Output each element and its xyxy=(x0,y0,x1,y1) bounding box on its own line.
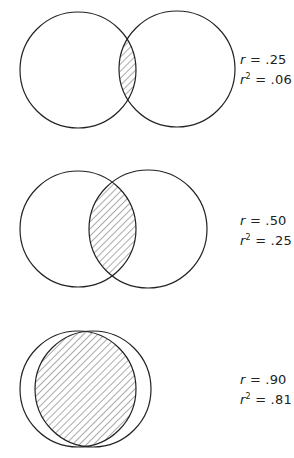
correlation-label: r = .25 xyxy=(240,52,287,67)
correlation-label: r = .50 xyxy=(240,213,287,228)
r-value: .25 xyxy=(265,52,286,67)
equals-sign: = xyxy=(251,72,271,87)
equals-sign: = xyxy=(246,372,266,387)
r-squared-label: r2 = .81 xyxy=(240,392,292,407)
equals-sign: = xyxy=(251,392,271,407)
equals-sign: = xyxy=(246,52,266,67)
venn-diagram-canvas xyxy=(0,0,294,458)
r-squared-label: r2 = .25 xyxy=(240,233,292,248)
r-value: .50 xyxy=(265,213,286,228)
venn-panel-r25 xyxy=(20,11,235,128)
equals-sign: = xyxy=(246,213,266,228)
venn-panel-r50 xyxy=(20,170,207,288)
r-squared-label: r2 = .06 xyxy=(240,72,292,87)
correlation-label: r = .90 xyxy=(240,372,287,387)
r-squared-value: .81 xyxy=(271,392,292,407)
r-squared-value: .06 xyxy=(271,72,292,87)
r-squared-value: .25 xyxy=(271,233,292,248)
venn-panel-r90 xyxy=(20,331,151,447)
equals-sign: = xyxy=(251,233,271,248)
r-value: .90 xyxy=(265,372,286,387)
